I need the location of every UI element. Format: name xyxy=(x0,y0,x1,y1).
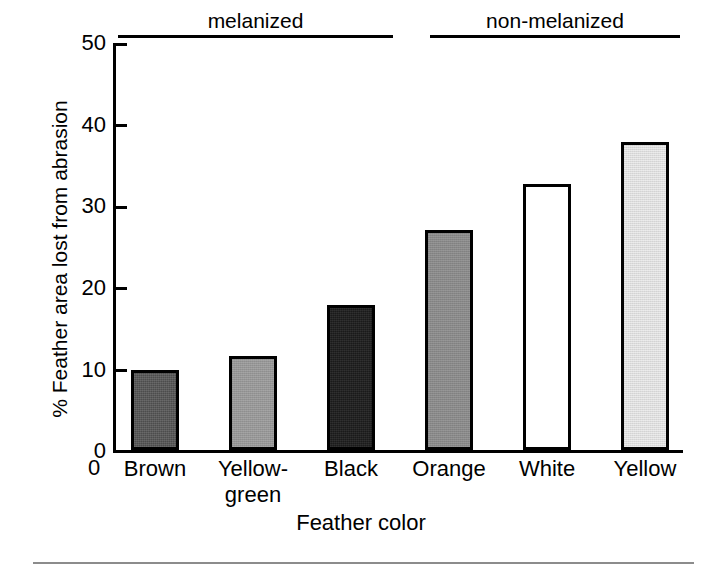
y-axis-tick-labels: 50 40 30 20 10 0 xyxy=(50,43,106,453)
bar-yellow[interactable] xyxy=(621,142,669,450)
group-melanized-label: melanized xyxy=(118,9,393,33)
x-tick-label-yellow-line1: Yellow xyxy=(580,456,710,482)
x-axis-line xyxy=(113,450,683,453)
bar-yellow-green[interactable] xyxy=(229,356,277,450)
group-melanized-line xyxy=(118,35,393,38)
x-axis-tick-labels: Brown Yellow- green Black Orange White Y… xyxy=(113,456,683,512)
group-non-melanized-line xyxy=(430,35,680,38)
bar-black[interactable] xyxy=(327,305,375,450)
x-tick-label-yellow: Yellow xyxy=(580,456,710,482)
figure-bar-chart-feather-abrasion: % Feather area lost from abrasion 50 40 … xyxy=(0,0,722,576)
x-axis-title: Feather color xyxy=(0,510,722,536)
bar-series xyxy=(113,43,683,450)
y-tick-label-10: 10 xyxy=(62,359,106,381)
bar-white[interactable] xyxy=(523,184,571,450)
y-tick-label-30: 30 xyxy=(62,195,106,217)
y-tick-label-40: 40 xyxy=(62,114,106,136)
plot-area: melanized non-melanized xyxy=(113,43,683,453)
group-non-melanized-label: non-melanized xyxy=(430,9,680,33)
x-tick-label-yellow-green-line2: green xyxy=(188,482,318,508)
bar-brown[interactable] xyxy=(131,370,179,450)
figure-bottom-rule xyxy=(33,562,694,564)
y-tick-label-20: 20 xyxy=(62,277,106,299)
bar-orange[interactable] xyxy=(425,230,473,450)
y-tick-label-50: 50 xyxy=(62,32,106,54)
